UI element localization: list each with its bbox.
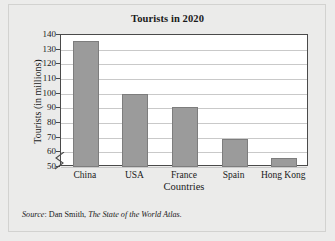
y-tick-label: 90 (14, 103, 56, 112)
y-tick-mark (56, 93, 60, 94)
source-note: Source: Dan Smith, The State of the Worl… (22, 210, 182, 219)
source-author: Dan Smith, (49, 210, 88, 219)
y-tick-mark (56, 107, 60, 108)
y-tick-label: 120 (14, 59, 56, 68)
y-tick-label: 60 (14, 147, 56, 156)
y-tick-mark (56, 122, 60, 123)
bar-usa[interactable] (122, 94, 148, 167)
y-tick-label: 70 (14, 133, 56, 142)
bar-france[interactable] (172, 107, 198, 167)
source-work: The State of the World Atlas. (88, 210, 182, 219)
y-tick-mark (56, 49, 60, 50)
chart-title: Tourists in 2020 (0, 13, 335, 24)
y-tick-label: 140 (14, 30, 56, 39)
plot-area (60, 34, 308, 166)
bar-china[interactable] (73, 41, 99, 167)
x-axis-label: Countries (60, 181, 308, 192)
chart-figure: Tourists in 2020 Tourists (in millions) … (0, 0, 335, 241)
y-tick-mark (56, 78, 60, 79)
y-tick-mark (56, 63, 60, 64)
y-tick-label: 80 (14, 118, 56, 127)
axis-break-icon (52, 152, 66, 170)
y-tick-label: 130 (14, 45, 56, 54)
gridline (61, 167, 307, 168)
y-tick-mark (56, 137, 60, 138)
x-tick-label: Hong Kong (243, 170, 323, 180)
y-tick-mark (56, 34, 60, 35)
y-tick-label: 100 (14, 89, 56, 98)
bar-hong-kong[interactable] (271, 158, 297, 167)
bar-spain[interactable] (222, 139, 248, 167)
source-prefix: Source (22, 210, 44, 219)
y-tick-label: 110 (14, 74, 56, 83)
